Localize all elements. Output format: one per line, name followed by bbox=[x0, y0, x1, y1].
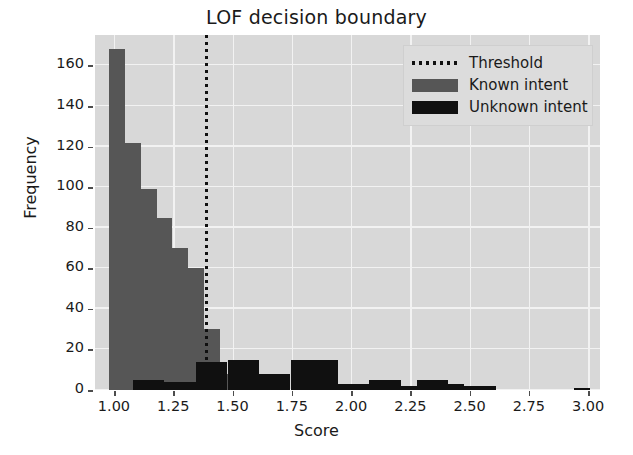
histogram-bar bbox=[259, 374, 275, 390]
histogram-bar bbox=[180, 382, 196, 390]
histogram-bar bbox=[212, 362, 228, 390]
x-tick-mark bbox=[173, 391, 175, 396]
histogram-bar bbox=[432, 380, 448, 390]
x-tick-mark bbox=[292, 391, 294, 396]
histogram-bar bbox=[141, 189, 157, 390]
legend-label-unknown-intent: Unknown intent bbox=[469, 98, 588, 116]
x-tick-mark bbox=[233, 391, 235, 396]
gridline-horizontal bbox=[95, 186, 600, 187]
y-tick-mark bbox=[88, 228, 93, 230]
histogram-bar bbox=[133, 380, 149, 390]
threshold-line bbox=[205, 35, 208, 390]
x-tick-label: 1.25 bbox=[143, 398, 203, 414]
histogram-bar bbox=[417, 380, 433, 390]
unknown-intent-swatch-icon bbox=[412, 101, 458, 114]
y-tick-mark bbox=[88, 147, 93, 149]
y-axis-label: Frequency bbox=[21, 88, 40, 268]
x-tick-label: 2.25 bbox=[380, 398, 440, 414]
figure: LOF decision boundary 1.001.251.501.752.… bbox=[0, 0, 633, 455]
histogram-bar bbox=[291, 360, 307, 390]
gridline-vertical bbox=[351, 35, 352, 390]
histogram-bar bbox=[196, 362, 212, 390]
legend-item-threshold: Threshold bbox=[412, 52, 584, 74]
legend-label-threshold: Threshold bbox=[469, 54, 543, 72]
histogram-bar bbox=[354, 384, 370, 390]
y-tick-label: 160 bbox=[24, 55, 84, 71]
histogram-bar bbox=[306, 360, 322, 390]
histogram-bar bbox=[369, 380, 385, 390]
x-tick-label: 1.00 bbox=[84, 398, 144, 414]
threshold-line-icon bbox=[412, 61, 458, 65]
histogram-bar bbox=[338, 384, 354, 390]
x-axis-label: Score bbox=[0, 421, 633, 440]
y-tick-label: 0 bbox=[24, 380, 84, 396]
gridline-vertical bbox=[233, 35, 234, 390]
x-tick-mark bbox=[351, 391, 353, 396]
y-tick-mark bbox=[88, 309, 93, 311]
y-tick-mark bbox=[88, 390, 93, 392]
histogram-bar bbox=[228, 360, 244, 390]
x-tick-label: 2.00 bbox=[321, 398, 381, 414]
x-tick-label: 1.75 bbox=[262, 398, 322, 414]
x-tick-label: 2.75 bbox=[499, 398, 559, 414]
histogram-bar bbox=[464, 386, 480, 390]
x-tick-mark bbox=[588, 391, 590, 396]
legend-item-unknown-intent: Unknown intent bbox=[412, 96, 584, 118]
histogram-bar bbox=[243, 360, 259, 390]
histogram-bar bbox=[149, 380, 165, 390]
x-tick-label: 2.50 bbox=[440, 398, 500, 414]
legend-label-known-intent: Known intent bbox=[469, 76, 568, 94]
x-tick-label: 3.00 bbox=[558, 398, 618, 414]
histogram-bar bbox=[401, 386, 417, 390]
gridline-vertical bbox=[292, 35, 293, 390]
histogram-bar bbox=[448, 384, 464, 390]
gridline-horizontal bbox=[95, 145, 600, 146]
y-tick-mark bbox=[88, 349, 93, 351]
histogram-bar bbox=[480, 386, 496, 390]
y-tick-mark bbox=[88, 187, 93, 189]
y-tick-mark bbox=[88, 106, 93, 108]
x-tick-mark bbox=[470, 391, 472, 396]
histogram-bar bbox=[172, 248, 188, 390]
y-tick-label: 40 bbox=[24, 299, 84, 315]
x-tick-label: 1.50 bbox=[203, 398, 263, 414]
x-tick-mark bbox=[410, 391, 412, 396]
known-intent-swatch-icon bbox=[412, 79, 458, 92]
histogram-bar bbox=[574, 388, 590, 390]
legend-item-known-intent: Known intent bbox=[412, 74, 584, 96]
histogram-bar bbox=[275, 374, 291, 390]
y-tick-label: 20 bbox=[24, 339, 84, 355]
histogram-bar bbox=[109, 49, 125, 390]
chart-title: LOF decision boundary bbox=[0, 6, 633, 28]
histogram-bar bbox=[125, 143, 141, 390]
histogram-bar bbox=[157, 218, 173, 390]
histogram-bar bbox=[322, 360, 338, 390]
legend: Threshold Known intent Unknown intent bbox=[403, 45, 593, 126]
x-tick-mark bbox=[114, 391, 116, 396]
y-tick-mark bbox=[88, 268, 93, 270]
histogram-bar bbox=[385, 380, 401, 390]
y-tick-mark bbox=[88, 65, 93, 67]
histogram-bar bbox=[164, 382, 180, 390]
x-tick-mark bbox=[529, 391, 531, 396]
